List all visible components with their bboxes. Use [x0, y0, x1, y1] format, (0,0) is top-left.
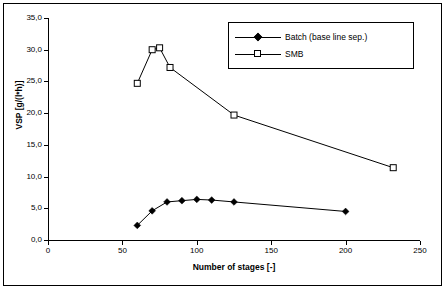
legend: Batch (base line sep.) SMB [228, 22, 414, 69]
open-square-marker-icon [167, 64, 173, 70]
open-square-marker-icon [149, 47, 155, 53]
filled-diamond-marker-icon [164, 199, 171, 206]
filled-diamond-marker-icon [231, 199, 238, 206]
filled-diamond-marker-icon [342, 208, 349, 215]
filled-diamond-marker-icon [208, 197, 215, 204]
filled-diamond-marker-icon [235, 31, 281, 43]
open-square-marker-icon [390, 165, 396, 171]
open-square-marker-icon [134, 80, 140, 86]
legend-item-batch: Batch (base line sep.) [235, 28, 407, 45]
filled-diamond-marker-icon [179, 197, 186, 204]
open-square-marker-icon [157, 45, 163, 51]
open-square-marker-icon [231, 112, 237, 118]
legend-label: SMB [281, 49, 303, 59]
filled-diamond-marker-icon [193, 196, 200, 203]
legend-label: Batch (base line sep.) [281, 32, 367, 42]
open-square-marker-icon [235, 48, 281, 60]
legend-item-smb: SMB [235, 45, 407, 62]
chart-container: 35,0 30,0 25,0 20,0 15,0 10,0 5,0 0,0 0 … [0, 0, 445, 289]
